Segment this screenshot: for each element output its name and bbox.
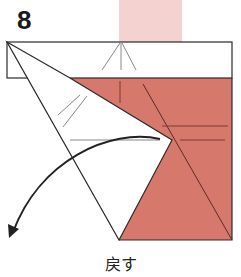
background-paper-strip bbox=[119, 0, 182, 45]
caption: 戻す bbox=[0, 251, 241, 275]
arrowhead-icon bbox=[8, 224, 19, 238]
origami-fold-diagram bbox=[0, 0, 241, 277]
